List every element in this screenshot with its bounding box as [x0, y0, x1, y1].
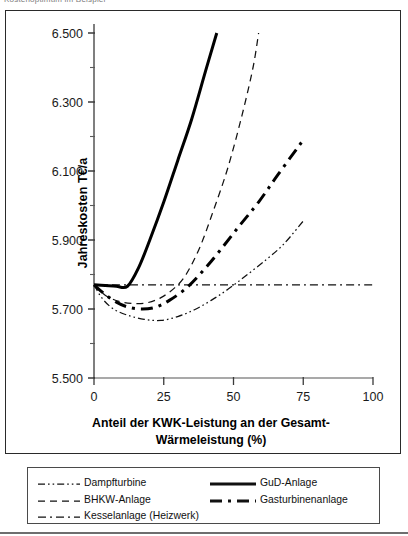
x-axis-label-line1: Anteil der KWK-Leistung an der Gesamt- [46, 415, 376, 432]
x-tick-label: 0 [91, 390, 98, 404]
x-tick-label: 50 [227, 390, 241, 404]
legend-label-bhkw-anlage: BHKW-Anlage [84, 494, 151, 505]
legend-label-gasturbinenanlage: Gasturbinenanlage [260, 494, 348, 505]
legend-label-dampfturbine: Dampfturbine [84, 477, 146, 488]
chart-frame: 5.5005.7005.9006.1006.3006.5000255075100… [5, 10, 401, 454]
series-line-gasturbinenanlage [94, 140, 303, 309]
chart-screenshot: Kostenoptimum im Beispiel 5.5005.7005.90… [0, 0, 408, 536]
page-top-text-fragment: Kostenoptimum im Beispiel [0, 0, 408, 10]
y-tick-label: 5.500 [52, 372, 83, 386]
x-axis-label-line2: Wärmeleistung (%) [46, 432, 376, 449]
legend-label-gud-anlage: GuD-Anlage [260, 477, 317, 488]
y-tick-label: 6.300 [52, 96, 83, 110]
y-tick-label: 6.500 [52, 27, 83, 41]
tick-labels-group: 5.5005.7005.9006.1006.3006.5000255075100 [52, 27, 384, 405]
x-axis-label: Anteil der KWK-Leistung an der Gesamt- W… [46, 415, 376, 449]
x-tick-label: 25 [157, 390, 171, 404]
x-tick-label: 75 [296, 390, 310, 404]
chart-plot-svg: 5.5005.7005.9006.1006.3006.5000255075100 [6, 11, 398, 451]
x-tick-label: 100 [363, 390, 384, 404]
axes-group [88, 24, 373, 385]
top-text: Kostenoptimum im Beispiel [4, 0, 105, 4]
page-bottom-rule [0, 532, 408, 534]
y-axis-label: Jahreskosten T€/a [76, 148, 90, 278]
chart-legend: DampfturbineGuD-AnlageBHKW-AnlageGasturb… [27, 467, 380, 524]
legend-label-kesselanlage-heizwerk: Kesselanlage (Heizwerk) [84, 510, 199, 521]
data-series-group [94, 33, 373, 321]
y-tick-label: 5.700 [52, 303, 83, 317]
